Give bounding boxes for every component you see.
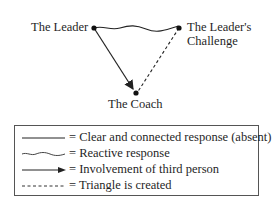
challenge-label-line2: Challenge [187, 35, 238, 48]
legend-item-reactive-response: = Reactive response [15, 146, 258, 161]
challenge-node-dot [176, 25, 181, 30]
triangle-diagram: The Leader The Leader's Challenge The Co… [0, 0, 272, 207]
third-person-involvement-edge [94, 28, 133, 89]
legend-item-triangle-created: = Triangle is created [15, 178, 258, 193]
challenge-label-line1: The Leader's [187, 21, 251, 34]
legend-text: = Reactive response [69, 146, 170, 161]
solid-line-icon [21, 130, 67, 145]
reactive-response-edge [94, 26, 179, 31]
arrow-line-icon [21, 162, 67, 177]
legend-text: = Clear and connected response (absent) [69, 130, 271, 145]
coach-label: The Coach [108, 98, 163, 111]
legend-item-third-person: = Involvement of third person [15, 162, 258, 177]
leader-node-dot [91, 25, 96, 30]
legend-text: = Involvement of third person [69, 162, 219, 177]
wavy-line-icon [21, 146, 67, 161]
dashed-line-icon [21, 178, 67, 193]
legend-item-clear-response: = Clear and connected response (absent) [15, 130, 258, 145]
legend-box: = Clear and connected response (absent) … [14, 125, 259, 196]
leader-label: The Leader [31, 21, 88, 34]
coach-node-dot [133, 90, 138, 95]
triangle-created-edge [137, 28, 179, 93]
legend-text: = Triangle is created [69, 178, 172, 193]
